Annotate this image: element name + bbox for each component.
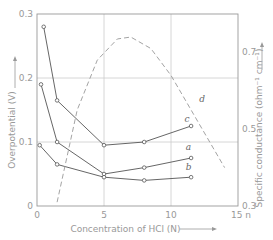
curve-label-d: d [199,94,205,104]
y-axis-arrow-icon [13,56,17,61]
data-point-marker [189,175,193,179]
data-point-marker [102,143,106,147]
curve-label-b: b [186,162,192,172]
series-d-line [57,37,225,202]
data-point-marker [55,140,59,144]
y2-axis-label: Specific conductance (ohm⁻¹ cm⁻¹) [254,49,264,208]
data-point-marker [102,175,106,179]
series-a-line [41,84,191,174]
curve-label-a: a [186,142,191,152]
data-point-marker [55,163,59,167]
x-axis-arrow-icon [212,227,217,231]
y-tick-label: 0.1 [19,137,33,147]
series-c-line [44,27,191,145]
data-point-marker [189,156,193,160]
y-tick-label: 0.3 [19,9,33,19]
curve-label-c: c [184,114,189,124]
data-point-marker [142,166,146,170]
y-axis-label: Overpotential (V) [7,91,17,169]
x-tick-label: 5 [101,210,107,220]
data-point-marker [55,99,59,103]
data-point-marker [42,25,46,29]
y-tick-label: 0.2 [19,73,33,83]
data-point-marker [189,124,193,128]
y-tick-label: 0 [27,201,33,211]
data-point-marker [39,83,43,87]
x-tick-label: 10 [165,210,177,220]
data-point-marker [142,179,146,183]
x-tick-label: 15 n [231,210,251,220]
x-axis-label: Concentration of HCl (N) [70,224,180,234]
data-point-marker [38,143,42,147]
chart: 051015 n00.10.20.30.30.50.7Concentration… [0,0,273,240]
data-point-marker [142,140,146,144]
y2-axis-arrow-icon [260,42,264,47]
x-tick-label: 0 [34,210,40,220]
